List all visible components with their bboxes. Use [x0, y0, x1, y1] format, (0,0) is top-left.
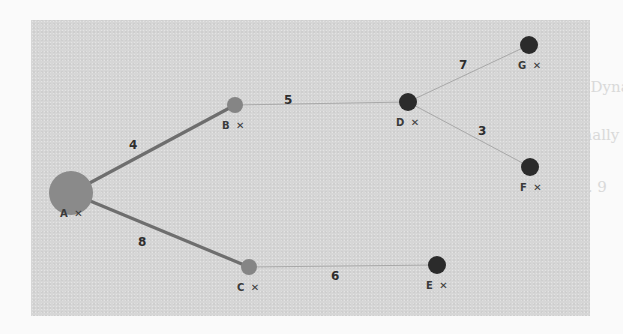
edge-weights-layer: 485673: [129, 58, 486, 283]
node-c: [241, 259, 257, 275]
edge-weight-d-g: 7: [459, 58, 467, 72]
node-label-f: F ✕: [520, 182, 543, 193]
edge-weight-a-b: 4: [129, 138, 137, 152]
node-label-a: A ✕: [60, 208, 84, 219]
node-label-d: D ✕: [396, 117, 421, 128]
node-b: [227, 97, 243, 113]
edge-a-c: [71, 193, 249, 267]
edges-layer: [71, 45, 530, 267]
edge-weight-d-f: 3: [478, 124, 486, 138]
node-labels-layer: A ✕B ✕C ✕D ✕E ✕F ✕G ✕: [60, 60, 543, 293]
edge-b-d: [235, 102, 408, 105]
edge-c-e: [249, 265, 437, 267]
edge-weight-a-c: 8: [138, 235, 146, 249]
node-e: [428, 256, 446, 274]
weighted-tree-graph: 485673 A ✕B ✕C ✕D ✕E ✕F ✕G ✕: [0, 0, 623, 334]
node-label-g: G ✕: [518, 60, 543, 71]
node-g: [520, 36, 538, 54]
node-label-b: B ✕: [222, 120, 246, 131]
node-f: [521, 158, 539, 176]
diagram-page: ard Dynamicmallyn. 9 485673 A ✕B ✕C ✕D ✕…: [0, 0, 623, 334]
edge-d-f: [408, 102, 530, 167]
edge-a-b: [71, 105, 235, 193]
node-d: [399, 93, 417, 111]
edge-weight-b-d: 5: [284, 93, 292, 107]
edge-weight-c-e: 6: [331, 269, 339, 283]
node-label-c: C ✕: [237, 282, 261, 293]
edge-d-g: [408, 45, 529, 102]
node-label-e: E ✕: [426, 280, 449, 291]
